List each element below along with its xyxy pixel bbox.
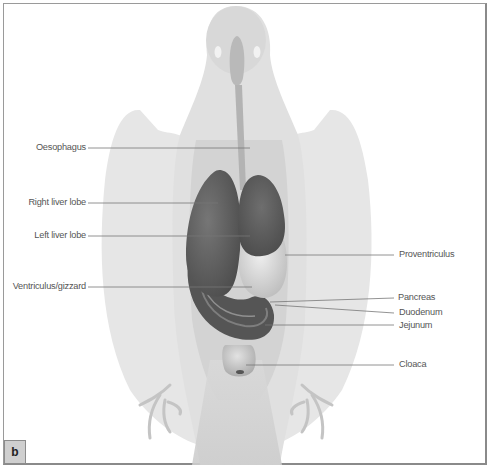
- cloaca-shape: [222, 345, 255, 377]
- label-right-liver-lobe: Right liver lobe: [28, 197, 86, 208]
- label-ventriculus-gizzard: Ventriculus/gizzard: [13, 281, 86, 292]
- label-cloaca: Cloaca: [399, 359, 426, 370]
- label-duodenum: Duodenum: [399, 307, 442, 318]
- label-jejunum: Jejunum: [399, 320, 432, 331]
- label-pancreas: Pancreas: [398, 292, 435, 303]
- label-proventriculus: Proventriculus: [399, 249, 454, 260]
- label-left-liver-lobe: Left liver lobe: [34, 230, 86, 241]
- panel-label-badge: b: [4, 440, 26, 464]
- label-oesophagus: Oesophagus: [36, 142, 86, 153]
